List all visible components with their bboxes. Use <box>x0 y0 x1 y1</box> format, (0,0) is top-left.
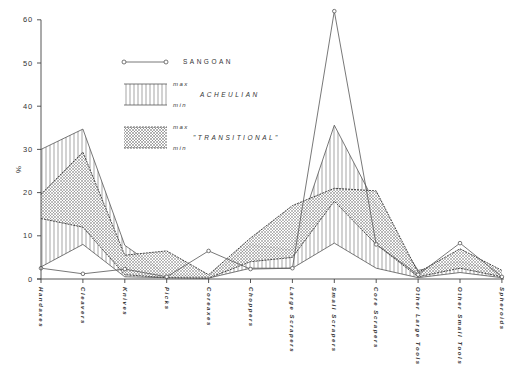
x-tick-label: Other Large Tools <box>415 287 421 366</box>
legend: SANGOAN max min ACHEULIAN max min "TRANS… <box>122 58 280 151</box>
legend-acheulian-label: ACHEULIAN <box>199 91 260 98</box>
x-tick-label: Large Scrapers <box>289 287 295 353</box>
legend-acheulian-max: max <box>173 81 189 87</box>
y-tick-label: 40 <box>23 102 33 111</box>
x-tick-label: Picks <box>164 287 170 311</box>
legend-sangoan: SANGOAN <box>122 58 233 65</box>
legend-acheulian: max min ACHEULIAN <box>124 81 260 108</box>
x-tick-label: Small Scrapers <box>331 287 337 353</box>
x-tick-label: Core Scrapers <box>373 287 379 349</box>
x-tick-label: Spheroids <box>499 287 505 331</box>
legend-acheulian-min: min <box>173 102 187 108</box>
plot-area <box>39 9 504 278</box>
x-tick-label: Cleavers <box>80 287 86 325</box>
x-tick-label: Handaxes <box>38 287 44 328</box>
sangoan-point <box>416 273 420 277</box>
legend-sangoan-label: SANGOAN <box>183 58 233 65</box>
y-tick-label: 50 <box>23 59 33 68</box>
x-tick-label: Knives <box>122 287 128 316</box>
y-tick-label: 60 <box>23 15 33 24</box>
x-tick-label: Choppers <box>248 287 254 328</box>
sangoan-point <box>123 267 127 271</box>
y-tick-label: 20 <box>23 188 33 197</box>
sangoan-point <box>458 241 462 245</box>
sangoan-point <box>207 249 211 253</box>
legend-transitional-min: min <box>173 145 187 151</box>
x-tick-label: Other Small Tools <box>457 287 463 365</box>
chart: 0102030405060HandaxesCleaversKnivesPicks… <box>0 0 512 368</box>
y-tick-label: 30 <box>23 145 33 154</box>
legend-transitional: max min "TRANSITIONAL" <box>124 124 280 151</box>
sangoan-point <box>165 275 169 279</box>
y-axis-label: % <box>14 166 23 173</box>
legend-transitional-label: "TRANSITIONAL" <box>193 134 280 141</box>
sangoan-point <box>500 275 504 279</box>
y-tick-label: 0 <box>28 275 33 284</box>
sangoan-point <box>291 266 295 270</box>
sangoan-point <box>249 267 253 271</box>
sangoan-point <box>333 9 337 13</box>
sangoan-point <box>81 272 85 276</box>
x-tick-label: Coreaxes <box>206 287 212 327</box>
y-tick-label: 10 <box>23 231 33 240</box>
legend-transitional-max: max <box>173 124 189 130</box>
sangoan-point <box>374 243 378 247</box>
